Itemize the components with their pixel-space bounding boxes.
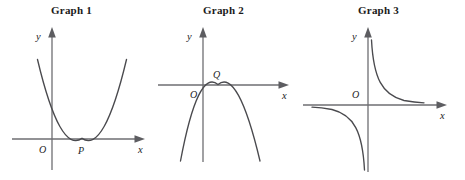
graph-3-origin-label: O: [352, 89, 359, 100]
graph-1-origin-label: O: [39, 144, 46, 155]
graph-3-plot: y x O: [300, 0, 465, 180]
graph-2-y-label: y: [186, 31, 192, 42]
y-axis-arrow-icon: [199, 27, 207, 38]
x-axis-arrow-icon: [279, 81, 290, 89]
graph-3-branch-q1: [372, 40, 425, 103]
graph-1-point-p-label: P: [77, 145, 84, 156]
y-axis-arrow-icon: [48, 27, 56, 38]
graph-3-y-axis: [364, 27, 372, 172]
graph-1-curve: [38, 60, 127, 141]
graph-1-x-axis: [12, 135, 145, 143]
graph-3-y-label: y: [351, 31, 357, 42]
y-axis-arrow-icon: [364, 27, 372, 38]
graph-2-point-q-label: Q: [213, 69, 221, 80]
x-axis-arrow-icon: [437, 101, 448, 109]
graph-2-y-axis: [199, 27, 207, 162]
graph-1-panel: Graph 1 y x O P: [0, 0, 155, 180]
x-axis-arrow-icon: [135, 135, 146, 143]
graph-1-plot: y x O P: [0, 0, 155, 180]
graph-3-x-label: x: [439, 110, 445, 121]
graph-1-x-label: x: [137, 144, 143, 155]
graph-3-branch-q3: [312, 107, 365, 170]
graph-3-panel: Graph 3 y x O: [300, 0, 455, 180]
graph-2-origin-label: O: [190, 89, 197, 100]
graph-2-plot: y x O Q: [150, 0, 305, 180]
three-graph-figure: Graph 1 y x O P Graph 2: [0, 0, 465, 180]
graph-2-panel: Graph 2 y x O Q: [150, 0, 305, 180]
graph-2-x-label: x: [281, 90, 287, 101]
graph-1-y-axis: [48, 27, 56, 170]
graph-1-y-label: y: [35, 31, 41, 42]
